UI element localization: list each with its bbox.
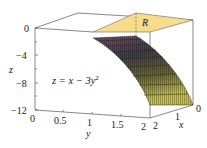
y-tick-1.5: 1.5 [111,119,124,130]
z-axis [35,28,38,110]
y-tick-0: 0 [30,113,35,124]
z-tick-neg12: −12 [11,105,27,116]
z-tick-0: 0 [24,23,29,34]
equation-label: z = x − 3y2 [51,74,99,86]
surface-plot: R 0 −4 −8 −12 z [0,0,207,148]
x-axis-label: x [178,119,184,130]
y-axis-label: y [85,128,91,139]
x-tick-2: 2 [153,120,158,131]
region-label: R [141,17,148,28]
z-tick-neg4: −4 [16,50,27,61]
surface [93,36,193,105]
z-axis-label: z [8,64,13,75]
x-tick-0: 0 [196,103,201,114]
y-tick-0.5: 0.5 [54,115,67,126]
z-tick-neg8: −8 [16,78,27,89]
y-tick-1: 1 [87,117,92,128]
y-tick-2: 2 [141,121,146,132]
